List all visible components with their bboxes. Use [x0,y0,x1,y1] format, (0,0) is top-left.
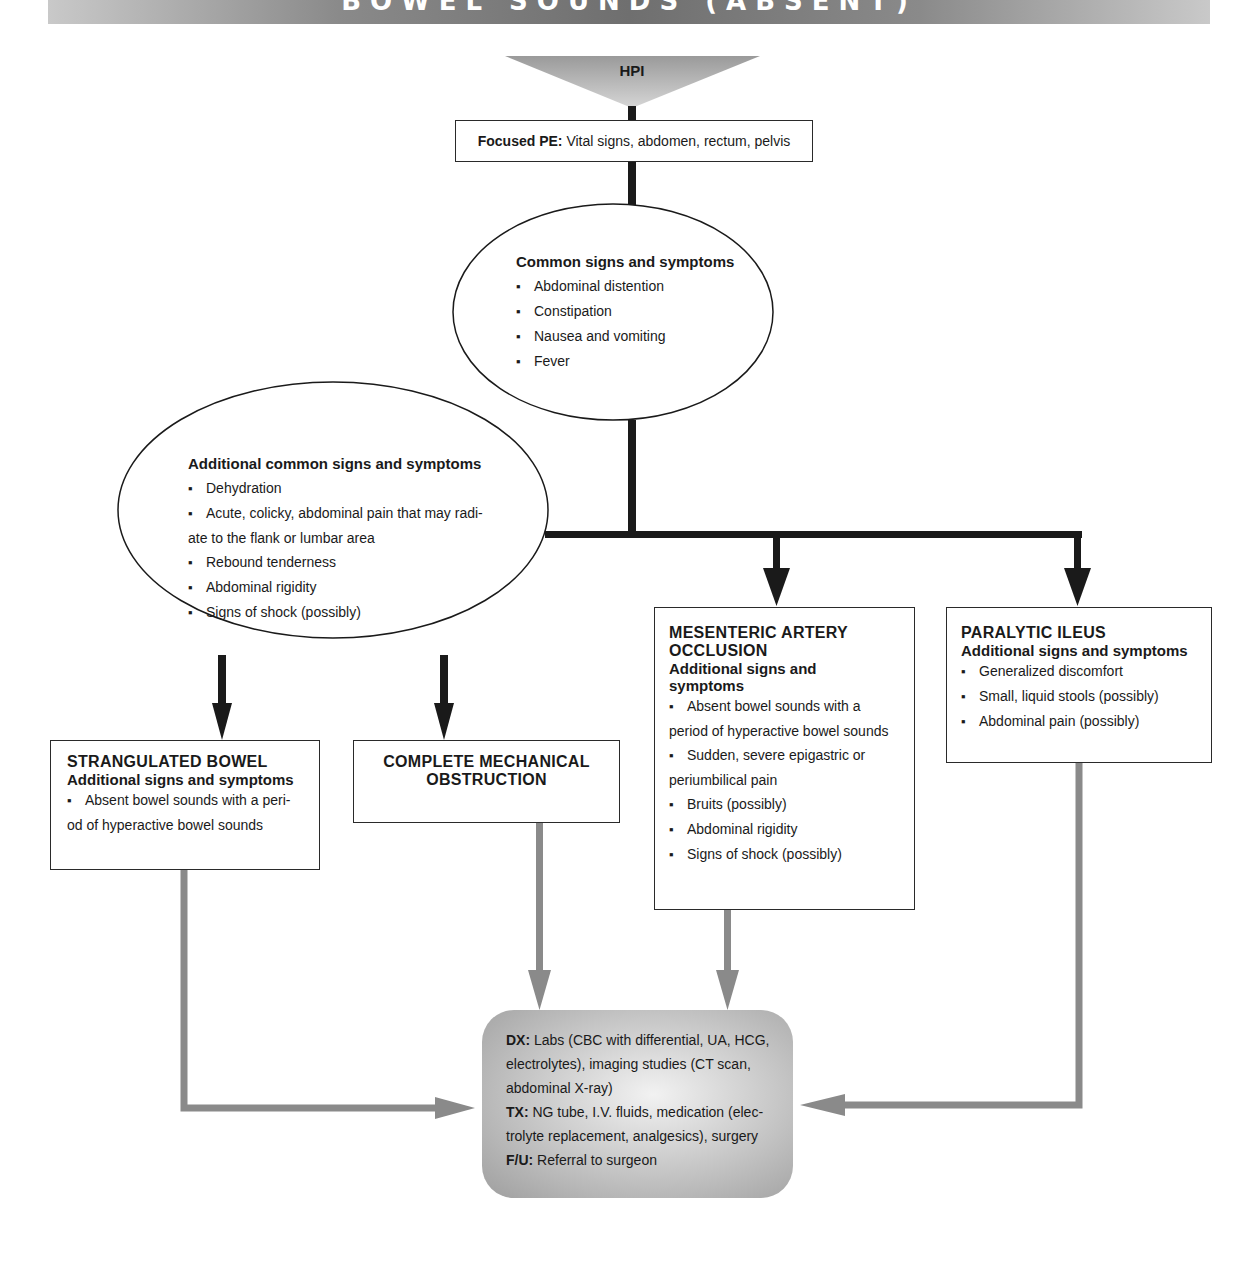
list-item: Absent bowel sounds with a [669,694,914,719]
mesenteric-subtitle-2: symptoms [669,677,914,694]
focused-pe-box: Focused PE: Vital signs, abdomen, rectum… [455,120,813,162]
list-item: Bruits (possibly) [669,792,914,817]
common-heading: Common signs and symptoms [516,250,734,274]
focused-pe-label: Focused PE: [478,133,563,149]
list-item: Signs of shock (possibly) [188,600,483,625]
paralytic-ileus-box: PARALYTIC ILEUS Additional signs and sym… [946,607,1212,763]
dx-line-1: Labs (CBC with differential, UA, HCG, [534,1032,770,1048]
paralytic-subtitle: Additional signs and symptoms [961,642,1211,659]
focused-pe-text: Vital signs, abdomen, rectum, pelvis [566,133,790,149]
tx-line-2: trolyte replacement, analgesics), surger… [506,1124,793,1148]
list-item: Acute, colicky, abdominal pain that may … [188,501,483,526]
list-item: Abdominal rigidity [188,575,483,600]
fu-label: F/U: [506,1152,533,1168]
list-item: Rebound tenderness [188,550,483,575]
list-item: Nausea and vomiting [516,324,734,349]
list-item: Constipation [516,299,734,324]
list-item: Dehydration [188,476,483,501]
list-item: Generalized discomfort [961,659,1211,684]
mesenteric-artery-occlusion-box: MESENTERIC ARTERY OCCLUSION Additional s… [654,607,915,910]
list-item: Fever [516,349,734,374]
list-item-continued: od of hyperactive bowel sounds [67,813,319,837]
mesenteric-subtitle-1: Additional signs and [669,660,914,677]
dx-tx-fu-box: DX: Labs (CBC with differential, UA, HCG… [482,1010,793,1198]
list-item: Signs of shock (possibly) [669,842,914,867]
dx-line-3: abdominal X-ray) [506,1076,793,1100]
strangulated-bowel-box: STRANGULATED BOWEL Additional signs and … [50,740,320,870]
tx-line-1: NG tube, I.V. fluids, medication (elec- [532,1104,763,1120]
dx-line-2: electrolytes), imaging studies (CT scan, [506,1052,793,1076]
list-item-continued: period of hyperactive bowel sounds [669,719,914,743]
common-signs: Common signs and symptoms Abdominal dist… [516,250,734,374]
dx-label: DX: [506,1032,530,1048]
list-item-continued: periumbilical pain [669,768,914,792]
list-item: Abdominal rigidity [669,817,914,842]
complete-mech-title-1: COMPLETE MECHANICAL [354,753,619,771]
additional-common-signs: Additional common signs and symptoms Deh… [188,452,483,625]
list-item: Small, liquid stools (possibly) [961,684,1211,709]
tx-label: TX: [506,1104,529,1120]
strangulated-subtitle: Additional signs and symptoms [67,771,319,788]
additional-heading: Additional common signs and symptoms [188,452,483,476]
list-item: Abdominal distention [516,274,734,299]
list-item-continued: ate to the flank or lumbar area [188,526,483,550]
paralytic-title: PARALYTIC ILEUS [961,624,1211,642]
complete-mech-title-2: OBSTRUCTION [354,771,619,789]
fu-text: Referral to surgeon [537,1152,657,1168]
mesenteric-title-2: OCCLUSION [669,642,914,660]
list-item: Absent bowel sounds with a peri- [67,788,319,813]
list-item: Abdominal pain (possibly) [961,709,1211,734]
mesenteric-title-1: MESENTERIC ARTERY [669,624,914,642]
hpi-label: HPI [606,62,658,79]
strangulated-title: STRANGULATED BOWEL [67,753,319,771]
list-item: Sudden, severe epigastric or [669,743,914,768]
complete-mechanical-obstruction-box: COMPLETE MECHANICAL OBSTRUCTION [353,740,620,823]
